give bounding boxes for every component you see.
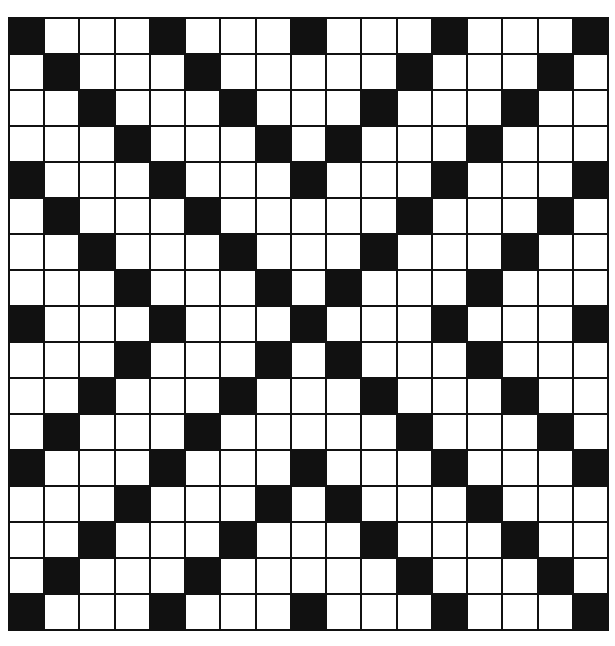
white-cell[interactable] [362,127,395,161]
white-cell[interactable] [574,523,607,557]
white-cell[interactable] [45,523,78,557]
white-cell[interactable] [257,19,290,53]
white-cell[interactable] [116,55,149,89]
white-cell[interactable] [574,487,607,521]
white-cell[interactable] [574,415,607,449]
white-cell[interactable] [10,415,43,449]
white-cell[interactable] [574,343,607,377]
white-cell[interactable] [292,235,325,269]
white-cell[interactable] [503,595,536,629]
white-cell[interactable] [45,343,78,377]
white-cell[interactable] [398,451,431,485]
white-cell[interactable] [257,235,290,269]
white-cell[interactable] [398,163,431,197]
white-cell[interactable] [433,523,466,557]
white-cell[interactable] [116,307,149,341]
white-cell[interactable] [327,379,360,413]
white-cell[interactable] [45,595,78,629]
white-cell[interactable] [221,559,254,593]
white-cell[interactable] [292,487,325,521]
white-cell[interactable] [80,343,113,377]
white-cell[interactable] [186,523,219,557]
white-cell[interactable] [574,127,607,161]
white-cell[interactable] [468,235,501,269]
white-cell[interactable] [116,235,149,269]
white-cell[interactable] [10,91,43,125]
white-cell[interactable] [257,379,290,413]
white-cell[interactable] [186,379,219,413]
white-cell[interactable] [221,415,254,449]
white-cell[interactable] [221,307,254,341]
white-cell[interactable] [433,235,466,269]
white-cell[interactable] [257,163,290,197]
white-cell[interactable] [468,19,501,53]
white-cell[interactable] [116,163,149,197]
white-cell[interactable] [116,91,149,125]
white-cell[interactable] [503,415,536,449]
white-cell[interactable] [574,379,607,413]
white-cell[interactable] [574,91,607,125]
white-cell[interactable] [186,271,219,305]
white-cell[interactable] [539,127,572,161]
white-cell[interactable] [503,55,536,89]
white-cell[interactable] [80,271,113,305]
white-cell[interactable] [292,559,325,593]
white-cell[interactable] [10,127,43,161]
white-cell[interactable] [398,235,431,269]
white-cell[interactable] [362,595,395,629]
white-cell[interactable] [221,127,254,161]
white-cell[interactable] [151,55,184,89]
white-cell[interactable] [221,55,254,89]
white-cell[interactable] [362,343,395,377]
white-cell[interactable] [186,343,219,377]
white-cell[interactable] [186,127,219,161]
white-cell[interactable] [362,55,395,89]
white-cell[interactable] [539,379,572,413]
white-cell[interactable] [398,271,431,305]
white-cell[interactable] [503,343,536,377]
white-cell[interactable] [10,271,43,305]
white-cell[interactable] [574,559,607,593]
white-cell[interactable] [468,163,501,197]
white-cell[interactable] [398,91,431,125]
white-cell[interactable] [433,343,466,377]
white-cell[interactable] [468,595,501,629]
white-cell[interactable] [80,487,113,521]
white-cell[interactable] [221,19,254,53]
white-cell[interactable] [257,199,290,233]
white-cell[interactable] [468,55,501,89]
white-cell[interactable] [398,523,431,557]
white-cell[interactable] [292,415,325,449]
white-cell[interactable] [503,199,536,233]
white-cell[interactable] [433,415,466,449]
white-cell[interactable] [292,271,325,305]
white-cell[interactable] [539,307,572,341]
white-cell[interactable] [362,559,395,593]
white-cell[interactable] [45,307,78,341]
white-cell[interactable] [116,199,149,233]
white-cell[interactable] [539,163,572,197]
white-cell[interactable] [80,163,113,197]
white-cell[interactable] [151,235,184,269]
white-cell[interactable] [151,127,184,161]
white-cell[interactable] [10,199,43,233]
white-cell[interactable] [362,307,395,341]
white-cell[interactable] [116,415,149,449]
white-cell[interactable] [45,487,78,521]
white-cell[interactable] [45,91,78,125]
white-cell[interactable] [292,55,325,89]
white-cell[interactable] [151,379,184,413]
white-cell[interactable] [80,127,113,161]
white-cell[interactable] [221,451,254,485]
white-cell[interactable] [468,379,501,413]
white-cell[interactable] [468,91,501,125]
white-cell[interactable] [327,595,360,629]
white-cell[interactable] [45,451,78,485]
white-cell[interactable] [116,379,149,413]
white-cell[interactable] [539,451,572,485]
white-cell[interactable] [221,343,254,377]
white-cell[interactable] [186,595,219,629]
white-cell[interactable] [539,235,572,269]
white-cell[interactable] [398,127,431,161]
white-cell[interactable] [433,55,466,89]
